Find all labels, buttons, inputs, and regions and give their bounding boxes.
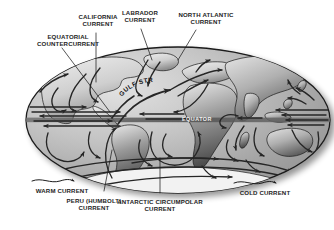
equator-label: EQUATOR — [182, 116, 212, 122]
label-california-current: CALIFORNIA CURRENT — [78, 13, 117, 28]
label-peru-humbolt-current: PERU (HUMBOLT) CURRENT — [67, 197, 122, 212]
label-warm-current: WARM CURRENT — [36, 187, 89, 194]
label-north-atlantic-current: NORTH ATLANTIC CURRENT — [178, 11, 233, 26]
land-new-zealand — [319, 151, 326, 161]
label-antarctic-circumpolar-current: ANTARCTIC CIRCUMPOLAR CURRENT — [117, 198, 203, 213]
label-equatorial-countercurrent: EQUATORIAL COUNTERCURRENT — [37, 33, 99, 48]
label-cold-current: COLD CURRENT — [240, 189, 291, 196]
ocean-currents-figure: GULF STREAM EQUATOR EQUATORIAL COUNTERCU… — [0, 0, 334, 230]
label-labrador-current: LABRADOR CURRENT — [122, 9, 158, 24]
warm-current-key-arrow — [32, 180, 74, 182]
